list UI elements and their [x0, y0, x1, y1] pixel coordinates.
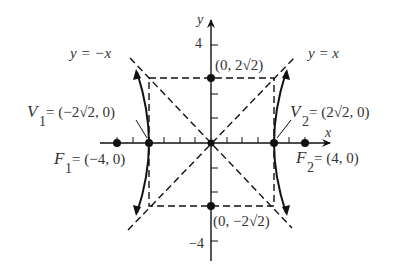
svg-text:= (−4, 0): = (−4, 0) [72, 151, 125, 168]
y-tick-bottom-label: −4 [189, 236, 204, 251]
x-axis-label: x [324, 125, 332, 140]
focus-f2-point [301, 139, 309, 147]
vertex-v1-point [145, 139, 153, 147]
focus-f1-point [113, 139, 121, 147]
svg-text:= (−2√2, 0): = (−2√2, 0) [46, 104, 115, 121]
svg-text:= (4, 0): = (4, 0) [314, 150, 359, 167]
focus-f1-label: F 1 = (−4, 0) [53, 149, 125, 176]
point-top [207, 74, 215, 82]
point-top-label: (0, 2√2) [215, 57, 263, 74]
point-bottom [207, 202, 215, 210]
svg-text:1: 1 [39, 114, 46, 129]
svg-text:2: 2 [307, 160, 314, 175]
svg-text:2: 2 [302, 114, 309, 129]
point-bottom-label: (0, −2√2) [213, 213, 270, 230]
svg-text:F: F [295, 148, 307, 167]
y-tick-top-label: 4 [195, 36, 202, 51]
asymptote-pos-label: y = x [306, 45, 339, 61]
svg-text:= (2√2, 0): = (2√2, 0) [309, 104, 369, 121]
asymptote-neg-label: y = −x [68, 45, 111, 61]
svg-text:1: 1 [65, 161, 72, 176]
vertex-v1-label: V 1 = (−2√2, 0) [27, 102, 115, 129]
vertex-v2-point [270, 139, 278, 147]
y-axis-label: y [195, 12, 204, 27]
hyperbola-diagram: y = −x y = x y 4 −4 x (0, 2√2) (0, −2√2)… [0, 0, 398, 277]
focus-f2-label: F 2 = (4, 0) [295, 148, 359, 175]
origin-point [208, 140, 215, 147]
svg-text:F: F [53, 149, 65, 168]
